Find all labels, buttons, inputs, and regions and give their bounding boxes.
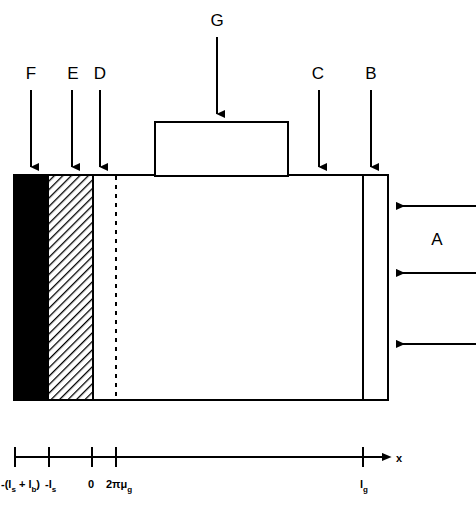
top-block bbox=[155, 122, 288, 176]
axis-tick-label-4: lg bbox=[360, 478, 368, 494]
axis-tick-label-0: -(ls + lb) bbox=[1, 478, 40, 494]
callout-label-g: G bbox=[210, 11, 223, 30]
axis-tick-label-2: 0 bbox=[88, 478, 94, 490]
callout-label-a: A bbox=[431, 230, 443, 249]
x-axis-label: x bbox=[396, 452, 403, 464]
layer-hatched bbox=[48, 176, 93, 399]
callout-label-d: D bbox=[94, 64, 106, 83]
x-axis bbox=[15, 447, 382, 467]
callout-label-b: B bbox=[365, 64, 376, 83]
axis-tick-label-3: 2πμg bbox=[106, 478, 132, 494]
axis-tick-label-1: -ls bbox=[45, 478, 57, 494]
layer-black bbox=[14, 176, 48, 399]
callout-arrows-a bbox=[396, 206, 476, 344]
callout-label-f: F bbox=[26, 64, 36, 83]
callout-label-e: E bbox=[67, 64, 78, 83]
schematic-figure: G F E D C B A bbox=[0, 0, 476, 513]
callout-label-c: C bbox=[312, 64, 324, 83]
